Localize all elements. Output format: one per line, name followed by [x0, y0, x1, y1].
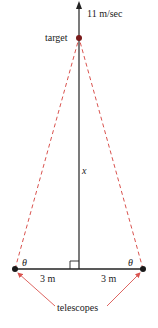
distance-left-label: 3 m — [40, 273, 55, 284]
sightline-left — [15, 38, 79, 269]
angle-right-label: θ — [128, 257, 133, 268]
angle-left-label: θ — [22, 257, 27, 268]
sightline-right — [79, 38, 143, 269]
telescope-right-dot — [140, 266, 146, 272]
telescopes-label: telescopes — [57, 302, 98, 313]
target-dot — [76, 35, 82, 41]
right-angle-marker — [70, 261, 79, 269]
target-label: target — [45, 32, 68, 43]
speed-label: 11 m/sec — [87, 8, 122, 19]
height-label: x — [82, 165, 86, 176]
up-arrow-icon — [76, 1, 82, 9]
distance-right-label: 3 m — [101, 273, 116, 284]
diagram-canvas — [0, 0, 158, 328]
telescope-left-dot — [12, 266, 18, 272]
vertical-path — [76, 1, 82, 269]
